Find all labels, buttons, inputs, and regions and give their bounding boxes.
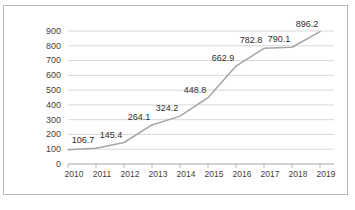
x-axis-tick-label: 2014 (177, 169, 196, 179)
x-axis-tick-label: 2019 (317, 169, 336, 179)
data-point-label: 106.7 (72, 135, 95, 145)
line-chart: 0100200300400500600700800900 20102011201… (4, 6, 349, 196)
x-axis-tick-label: 2018 (289, 169, 308, 179)
x-axis-tick-label: 2013 (149, 169, 168, 179)
y-axis-tick-label: 100 (46, 144, 61, 154)
data-point-label: 264.1 (128, 112, 151, 122)
chart-frame: 0100200300400500600700800900 20102011201… (3, 5, 348, 195)
data-point-label: 145.4 (100, 130, 123, 140)
x-axis-tick-label: 2017 (261, 169, 280, 179)
y-axis-tick-label: 600 (46, 70, 61, 80)
y-axis-tick-label: 500 (46, 85, 61, 95)
data-point-label: 782.8 (240, 35, 263, 45)
x-axis-tick-label: 2015 (205, 169, 224, 179)
y-axis-tick-label: 200 (46, 129, 61, 139)
x-axis-tick-labels: 2010201120122013201420152016201720182019 (65, 169, 336, 179)
data-point-labels: 106.7145.4264.1324.2448.8662.9782.8790.1… (72, 19, 319, 146)
data-point-label: 662.9 (212, 53, 235, 63)
data-point-label: 448.8 (184, 85, 207, 95)
y-axis-tick-label: 800 (46, 41, 61, 51)
x-axis-tick-label: 2012 (121, 169, 140, 179)
y-axis-tick-labels: 0100200300400500600700800900 (46, 26, 61, 169)
y-axis-tick-label: 400 (46, 100, 61, 110)
y-axis-tick-label: 900 (46, 26, 61, 36)
x-axis-tick-marks (68, 164, 320, 168)
data-point-label: 790.1 (268, 34, 291, 44)
x-axis-tick-label: 2010 (65, 169, 84, 179)
y-axis-tick-label: 300 (46, 115, 61, 125)
data-point-label: 896.2 (296, 19, 319, 29)
x-axis-tick-label: 2016 (233, 169, 252, 179)
y-axis-tick-label: 700 (46, 55, 61, 65)
x-axis-tick-label: 2011 (93, 169, 112, 179)
data-point-label: 324.2 (156, 103, 179, 113)
y-axis-tick-label: 0 (56, 159, 61, 169)
